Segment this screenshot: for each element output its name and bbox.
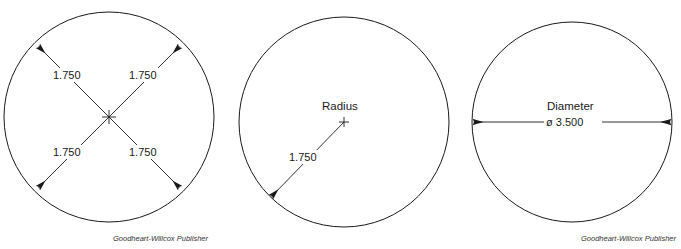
dim-label-lower-right: 1.750 [129, 146, 157, 158]
diameter-title-label: Diameter [547, 100, 594, 112]
dimension-labels-2: 1.750 [288, 150, 324, 164]
credit-line-right: Goodheart-Willcox Publisher [581, 234, 676, 243]
panel-diameter-circle: Diameter ø 3.500 Goodheart-Willcox Publi… [472, 22, 676, 243]
radius-title-label: Radius [322, 100, 358, 112]
dimension-labels-1: 1.750 1.750 1.750 1.750 [52, 68, 164, 159]
panel-radius-circle: Radius 1.750 [239, 17, 449, 227]
dimension-labels-3: ø 3.500 [544, 115, 602, 129]
dim-label-upper-right: 1.750 [129, 69, 157, 81]
technical-drawing-svg: 1.750 1.750 1.750 1.750 Goodheart-Willco… [0, 0, 681, 249]
dim-label-radius: 1.750 [289, 151, 317, 163]
dim-label-diameter: ø 3.500 [546, 116, 583, 128]
figure-canvas: 1.750 1.750 1.750 1.750 Goodheart-Willco… [0, 0, 681, 249]
credit-line-left: Goodheart-Willcox Publisher [113, 234, 208, 243]
dim-label-upper-left: 1.750 [53, 69, 81, 81]
dim-label-lower-left: 1.750 [53, 146, 81, 158]
panel-four-radii-circle: 1.750 1.750 1.750 1.750 Goodheart-Willco… [4, 12, 214, 243]
